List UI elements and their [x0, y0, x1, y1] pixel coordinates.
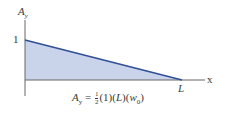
x-axis-label: x [207, 73, 213, 85]
fraction: 12 [95, 91, 99, 106]
area-formula: Ay = 12(1)(L)(w0) [72, 91, 144, 106]
y-tick-label: 1 [13, 33, 19, 45]
x-end-label: L [178, 82, 184, 94]
influence-line-plot [0, 0, 227, 131]
y-axis-label: Ay [18, 5, 28, 20]
